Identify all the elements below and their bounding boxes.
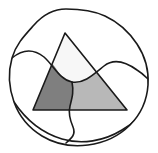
figure-canvas: Venn-style overlap of an irregular blob … (0, 0, 158, 153)
